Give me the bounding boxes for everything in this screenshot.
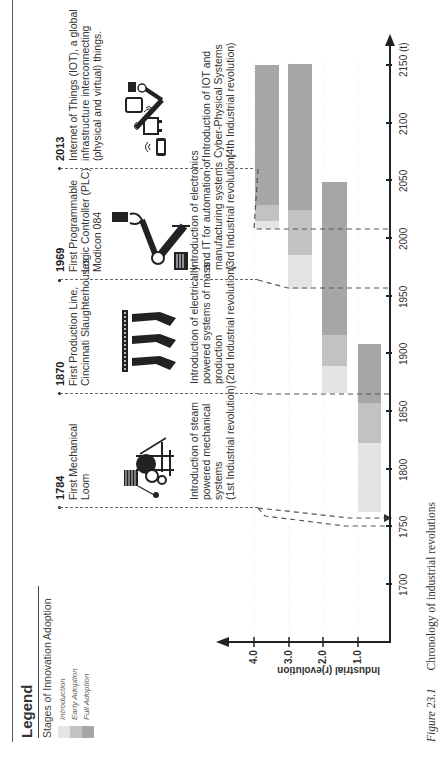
time-axis-arrow	[385, 34, 395, 46]
x-tick-1950: 1950	[398, 286, 409, 308]
revolution-axis-arrow	[216, 637, 229, 647]
x-tick-1700: 1700	[398, 574, 409, 596]
chart-plot	[0, 0, 442, 762]
y-tick-3: 3.0	[283, 650, 294, 664]
figure-caption-label: Figure 23.1	[425, 688, 437, 742]
bar-revolution-2	[322, 182, 347, 393]
figure-caption-text: Chronology of industrial revolutions	[425, 502, 437, 670]
x-tick-2000: 2000	[398, 228, 409, 250]
x-tick-1750: 1750	[398, 516, 409, 538]
bar-revolution-3	[288, 64, 312, 289]
x-tick-1900: 1900	[398, 343, 409, 365]
y-tick-1: 1.0	[352, 650, 363, 664]
y-tick-2: 2.0	[317, 650, 328, 664]
figure-caption: Figure 23.1 Chronology of industrial rev…	[425, 502, 437, 742]
x-tick-2050: 2050	[398, 170, 409, 192]
y-tick-4: 4.0	[248, 650, 259, 664]
y-axis-label: Industrial (r)evolution	[277, 665, 380, 676]
bar-revolution-4	[255, 65, 279, 229]
x-tick-2150: 2150 (t)	[398, 43, 409, 77]
x-tick-1850: 1850	[398, 401, 409, 423]
bar-revolution-1	[358, 344, 381, 512]
x-tick-1800: 1800	[398, 459, 409, 481]
x-tick-2100: 2100	[398, 113, 409, 135]
figure-rotated: Legend Stages of Innovation Adoption Int…	[0, 0, 442, 762]
